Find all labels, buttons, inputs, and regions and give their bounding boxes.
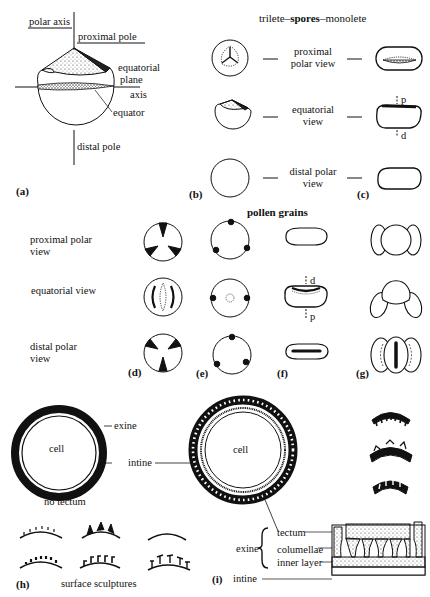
pollen-row-equatorial: equatorial view [31,285,96,297]
label-cell-left: cell [49,443,64,455]
exine-brace [258,528,268,568]
row-line1: distal polar [30,341,77,352]
marker-p: p [401,94,406,106]
pollen-g-distal [371,337,421,373]
label-inner-layer: inner layer [277,557,322,569]
marker-d: d [401,130,406,142]
view-line1: distal polar [290,166,337,177]
pollen-d-proximal [144,223,182,261]
pollen-f-equatorial [285,276,327,318]
monolete-proximal-view [376,47,422,70]
row-line2: view [30,353,50,364]
label-tectum: tectum [277,527,306,539]
pollen-g-equatorial [367,281,425,320]
pollen-g-proximal [371,225,421,255]
label-intine: intine [128,457,152,469]
title-trilete: trilete– [259,12,290,24]
tag-c: (c) [357,188,369,200]
spore-view-equatorial: equatorialview [282,104,344,128]
trilete-equatorial-view [215,100,251,129]
trilete-distal-view [211,159,249,197]
cell-with-tectum [193,400,293,531]
tag-d: (d) [128,366,141,378]
label-surface-sculptures: surface sculptures [61,578,137,590]
title-monolete: –monolete [320,12,366,24]
marker-d-pollen: d [310,275,315,287]
pollen-d-equatorial [144,278,182,316]
spore-view-distal: distal polarview [282,166,344,190]
pollen-e-distal [213,334,251,374]
sculpture-detail-stack [370,413,412,495]
label-columellae: columellae [277,544,323,556]
tag-f: (f) [277,367,288,379]
label-distal-pole: distal pole [77,141,120,153]
label-no-tectum: no tectum [44,496,86,508]
pollen-title: pollen grains [247,206,308,218]
row-line2: view [30,246,50,257]
label-exine-section: exine [236,543,259,555]
tag-g: (g) [356,367,369,379]
label-cell-right: cell [233,444,248,456]
view-line2: view [303,178,323,189]
pollen-f-distal [286,344,328,359]
row-line1: proximal polar [30,234,92,245]
label-polar-axis: polar axis [29,16,70,28]
marker-p-pollen: p [310,311,315,323]
spore-view-proximal: proximalpolar view [282,46,344,70]
pollen-e-equatorial [210,279,250,317]
cell-no-tectum [15,409,199,497]
surface-sculptures [20,522,190,570]
trilete-proximal-view [212,40,248,76]
pollen-e-proximal [211,219,250,259]
label-axis: axis [130,89,147,101]
label-proximal-pole: proximal pole [78,31,137,43]
pollen-f-proximal [286,228,327,245]
label-intine-section: intine [233,573,257,585]
tag-h: (h) [16,578,29,590]
label-plane: plane [120,74,143,86]
spores-title: trilete–spores–monolete [259,12,366,24]
label-equator: equator [113,107,145,119]
monolete-distal-view [378,168,421,189]
view-line1: proximal [294,46,332,57]
view-line1: equatorial [292,104,334,115]
tag-i: (i) [212,573,222,585]
tag-e: (e) [196,367,208,379]
label-equatorial: equatorial [118,62,160,74]
monolete-equatorial-view [377,96,421,137]
label-exine: exine [114,420,137,432]
pollen-row-distal: distal polarview [30,341,77,365]
view-line2: polar view [291,58,336,69]
view-line2: view [303,116,323,127]
pollen-d-distal [144,334,182,372]
tag-b: (b) [189,188,202,200]
pollen-row-proximal: proximal polarview [30,234,92,258]
tag-a: (a) [16,185,29,197]
title-spores: spores [290,12,320,24]
